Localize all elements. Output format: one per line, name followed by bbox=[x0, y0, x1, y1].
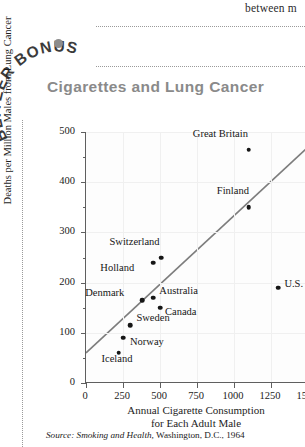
data-point-label: Australia bbox=[159, 285, 198, 296]
x-axis-tick-label: 0 bbox=[65, 390, 105, 401]
x-axis-tick-label: 250 bbox=[102, 390, 142, 401]
source-title: Smoking and Health, bbox=[77, 430, 154, 440]
data-point[interactable] bbox=[276, 285, 281, 290]
data-point[interactable] bbox=[159, 255, 164, 260]
y-axis-tick bbox=[81, 132, 86, 133]
data-point[interactable] bbox=[128, 323, 133, 328]
y-axis-tick-minor bbox=[83, 157, 87, 158]
data-point-label: Iceland bbox=[102, 353, 133, 364]
x-axis-tick-label: 750 bbox=[176, 390, 216, 401]
x-axis-tick bbox=[197, 383, 198, 388]
x-axis-tick-label: 1000 bbox=[213, 390, 253, 401]
data-point[interactable] bbox=[247, 147, 252, 152]
y-axis-tick-label: 0 bbox=[41, 376, 75, 387]
y-axis-tick bbox=[81, 182, 86, 183]
x-axis-title-line1: Annual Cigarette Consumption bbox=[85, 404, 305, 417]
gridline-horizontal bbox=[86, 283, 305, 284]
y-axis-tick-label: 400 bbox=[41, 175, 75, 186]
data-point[interactable] bbox=[158, 305, 163, 310]
x-axis-title: Annual Cigarette Consumption for Each Ad… bbox=[85, 404, 305, 430]
trend-line bbox=[86, 147, 305, 353]
x-axis-tick bbox=[123, 383, 124, 388]
x-axis-title-line2: for Each Adult Male bbox=[85, 417, 305, 430]
y-axis-tick-minor bbox=[83, 308, 87, 309]
y-axis-tick bbox=[81, 333, 86, 334]
data-point-label: Switzerland bbox=[109, 236, 159, 247]
y-axis-tick-label: 100 bbox=[41, 326, 75, 337]
y-axis-title: Deaths per Million Males from Lung Cance… bbox=[2, 0, 13, 236]
trendline-layer bbox=[86, 132, 305, 382]
y-axis-tick-minor bbox=[83, 258, 87, 259]
data-point-label: Sweden bbox=[136, 312, 169, 323]
data-point-label: Norway bbox=[130, 336, 164, 347]
gridline-vertical bbox=[234, 132, 235, 382]
y-axis-tick bbox=[81, 383, 86, 384]
gridline-horizontal bbox=[86, 333, 305, 334]
data-point[interactable] bbox=[151, 260, 156, 265]
gridline-vertical bbox=[271, 132, 272, 382]
x-axis-tick-label: 500 bbox=[139, 390, 179, 401]
x-axis-tick bbox=[86, 383, 87, 388]
gridline-horizontal bbox=[86, 232, 305, 233]
data-point-label: Great Britain bbox=[193, 128, 248, 139]
x-axis-tick bbox=[234, 383, 235, 388]
data-point-label: Denmark bbox=[85, 287, 124, 298]
data-point-label: Holland bbox=[100, 262, 134, 273]
x-axis-tick bbox=[160, 383, 161, 388]
gridline-horizontal bbox=[86, 182, 305, 183]
source-note: Source: Smoking and Health, Washington, … bbox=[46, 430, 245, 440]
y-axis-tick-minor bbox=[83, 358, 87, 359]
y-axis-tick bbox=[81, 283, 86, 284]
source-publisher: Washington, D.C., 1964 bbox=[156, 430, 245, 440]
y-axis-tick bbox=[81, 232, 86, 233]
scatter-chart-figure: Great BritainFinlandSwitzerlandHollandDe… bbox=[0, 0, 305, 447]
data-point-label: Finland bbox=[217, 185, 249, 196]
x-axis-tick-label: 1250 bbox=[250, 390, 290, 401]
data-point[interactable] bbox=[121, 336, 126, 341]
plot-area: Great BritainFinlandSwitzerlandHollandDe… bbox=[85, 132, 305, 383]
y-axis-tick-label: 200 bbox=[41, 276, 75, 287]
data-point-label: U.S. bbox=[284, 278, 303, 289]
y-axis-tick-minor bbox=[83, 207, 87, 208]
gridline-vertical bbox=[123, 132, 124, 382]
x-axis-tick bbox=[271, 383, 272, 388]
x-axis-tick-label: 1500 bbox=[287, 390, 305, 401]
data-point[interactable] bbox=[247, 205, 252, 210]
gridline-vertical bbox=[197, 132, 198, 382]
data-point[interactable] bbox=[151, 295, 156, 300]
y-axis-tick-label: 300 bbox=[41, 225, 75, 236]
y-axis-tick-label: 500 bbox=[41, 125, 75, 136]
source-prefix: Source: bbox=[46, 430, 74, 440]
data-point[interactable] bbox=[140, 298, 145, 303]
